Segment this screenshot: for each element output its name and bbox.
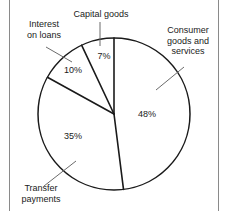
label-interest-on-loans: Interest on loans <box>12 19 76 40</box>
value-label-transfer-payments: 35% <box>58 131 88 141</box>
pie-divider-consumer-transfer <box>114 114 124 189</box>
pie-divider-transfer-interest <box>47 77 114 114</box>
value-label-capital-goods: 7% <box>92 51 116 61</box>
value-label-interest-on-loans: 10% <box>58 65 88 75</box>
label-capital-goods: Capital goods <box>60 9 142 20</box>
leader-line-interest-on-loans <box>46 47 72 62</box>
label-transfer-payments: Transfer payments <box>10 183 72 204</box>
label-consumer-goods-and-services: Consumer goods and services <box>157 25 219 57</box>
value-label-consumer-goods: 48% <box>132 109 162 119</box>
pie-chart-figure: Capital goods Interest on loans Consumer… <box>0 0 227 211</box>
leader-line-consumer-goods <box>156 67 184 90</box>
